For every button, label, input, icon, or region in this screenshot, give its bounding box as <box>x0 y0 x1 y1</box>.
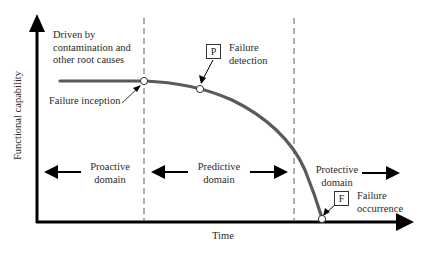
x-axis <box>36 213 414 231</box>
left-arrow-icon <box>151 165 165 179</box>
failure-inception-label: Failure inception <box>49 95 120 108</box>
driver-note: Driven by contamination and other root c… <box>53 29 131 67</box>
p-marker-box: P <box>206 44 221 59</box>
left-arrow-icon <box>44 165 58 179</box>
proactive-domain-label: Proactive domain <box>80 161 140 186</box>
x-axis-arrow-icon <box>396 213 414 231</box>
inception-pointer <box>122 85 141 103</box>
proactive-arrow <box>44 165 81 179</box>
failure-inception-point <box>140 77 147 84</box>
detection-pointer <box>199 60 213 84</box>
x-axis-label: Time <box>212 230 234 243</box>
y-axis-arrow-icon <box>29 14 45 32</box>
f-marker-box: F <box>334 191 349 206</box>
y-axis <box>29 14 45 223</box>
protective-arrow <box>362 166 400 180</box>
y-axis-label: Functional capability <box>12 61 23 171</box>
predictive-domain-label: Predictive domain <box>187 161 251 186</box>
failure-occurrence-point <box>318 215 325 222</box>
failure-detection-point <box>196 85 203 92</box>
failure-detection-label: Failure detection <box>229 42 267 67</box>
right-arrow-icon <box>386 166 400 180</box>
failure-occurrence-label: Failure occurrence <box>357 190 403 215</box>
protective-domain-label: Protective domain <box>307 164 367 189</box>
right-arrow-icon <box>274 165 288 179</box>
